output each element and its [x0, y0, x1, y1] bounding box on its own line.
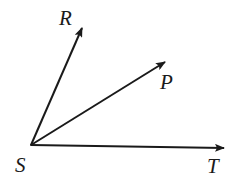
- label-s: S: [15, 155, 26, 176]
- ray-st: [31, 145, 224, 148]
- ray-sp: [31, 62, 165, 145]
- label-p: P: [160, 72, 173, 93]
- ray-sr: [31, 28, 82, 145]
- label-r: R: [59, 8, 72, 29]
- label-t: T: [207, 156, 219, 177]
- angle-diagram: [0, 0, 235, 187]
- vertex-point: [30, 144, 32, 146]
